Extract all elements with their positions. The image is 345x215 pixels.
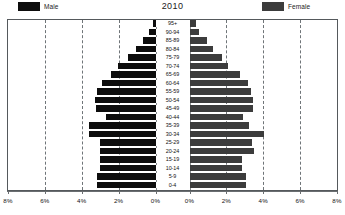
age-group-label: 25-29 [156, 139, 190, 146]
x-axis-tick-label: 4% [259, 197, 268, 204]
bar-male [97, 88, 156, 95]
table-row: 10-14 [8, 165, 337, 174]
bar-female [190, 165, 243, 172]
x-axis-tick-label: 8% [3, 197, 12, 204]
age-group-label: 90-94 [156, 29, 190, 36]
x-axis-tick [82, 191, 83, 194]
table-row: 0-4 [8, 182, 337, 191]
x-axis-tick-label: 2% [222, 197, 231, 204]
x-axis-tick [300, 191, 301, 194]
age-group-label: 40-44 [156, 114, 190, 121]
x-axis-tick-label: 6% [295, 197, 304, 204]
age-group-label: 15-19 [156, 156, 190, 163]
table-row: 40-44 [8, 114, 337, 123]
population-pyramid-chart: Male 2010 Female 95+90-9485-8980-8475-79… [0, 0, 345, 215]
bar-male [89, 131, 155, 138]
table-row: 80-84 [8, 46, 337, 55]
bar-female [190, 148, 255, 155]
bar-male [97, 182, 156, 189]
legend-item-female: Female [262, 2, 310, 11]
bar-male [100, 165, 155, 172]
plot-area: 95+90-9485-8980-8475-7970-7465-6960-6455… [7, 19, 338, 191]
bar-female [190, 29, 199, 36]
bar-female [190, 20, 196, 27]
bar-male [106, 114, 156, 121]
age-group-label: 55-59 [156, 88, 190, 95]
age-group-label: 0-4 [156, 182, 190, 189]
table-row: 95+ [8, 20, 337, 29]
bar-male [100, 139, 155, 146]
bar-male [102, 80, 155, 87]
table-row: 20-24 [8, 148, 337, 157]
age-group-label: 20-24 [156, 148, 190, 155]
x-axis-tick [8, 191, 9, 194]
bar-male [118, 63, 156, 70]
table-row: 25-29 [8, 139, 337, 148]
bar-female [190, 131, 265, 138]
x-axis-tick-label: 4% [77, 197, 86, 204]
x-axis-line [7, 191, 338, 192]
x-axis-tick [190, 191, 191, 194]
bar-female [190, 63, 229, 70]
x-axis-tick-label: 2% [114, 197, 123, 204]
bar-male [100, 156, 155, 163]
age-group-label: 75-79 [156, 54, 190, 61]
x-axis-tick [337, 191, 338, 194]
bar-female [190, 114, 243, 121]
age-group-label: 65-69 [156, 71, 190, 78]
bar-male [100, 148, 155, 155]
age-group-label: 80-84 [156, 46, 190, 53]
bar-female [190, 97, 254, 104]
age-group-label: 10-14 [156, 165, 190, 172]
table-row: 45-49 [8, 105, 337, 114]
bar-female [190, 139, 253, 146]
age-group-label: 30-34 [156, 131, 190, 138]
bar-male [143, 37, 156, 44]
table-row: 35-39 [8, 122, 337, 131]
x-axis-tick [45, 191, 46, 194]
bar-female [190, 173, 246, 180]
bar-female [190, 105, 254, 112]
age-group-label: 70-74 [156, 63, 190, 70]
bar-rows: 95+90-9485-8980-8475-7970-7465-6960-6455… [8, 20, 337, 190]
bar-male [128, 54, 156, 61]
age-group-label: 50-54 [156, 97, 190, 104]
bar-female [190, 80, 248, 87]
x-axis-tick-label: 0% [185, 197, 194, 204]
bar-male [89, 122, 155, 129]
bar-male [96, 105, 156, 112]
legend-swatch-female-icon [262, 2, 284, 11]
age-group-label: 45-49 [156, 105, 190, 112]
bar-male [95, 97, 156, 104]
bar-female [190, 37, 208, 44]
bar-female [190, 156, 243, 163]
x-axis-tick-label: 6% [40, 197, 49, 204]
table-row: 75-79 [8, 54, 337, 63]
table-row: 50-54 [8, 97, 337, 106]
legend: Male 2010 Female [0, 0, 345, 18]
table-row: 5-9 [8, 173, 337, 182]
bar-female [190, 46, 214, 53]
x-axis-tick [263, 191, 264, 194]
bar-female [190, 88, 252, 95]
bar-male [136, 46, 155, 53]
x-axis-tick [226, 191, 227, 194]
x-axis-tick-label: 0% [151, 197, 160, 204]
bar-female [190, 122, 250, 129]
legend-label-female: Female [288, 3, 310, 10]
age-group-label: 5-9 [156, 173, 190, 180]
age-group-label: 95+ [156, 20, 190, 27]
bar-male [111, 71, 155, 78]
table-row: 15-19 [8, 156, 337, 165]
age-group-label: 60-64 [156, 80, 190, 87]
table-row: 60-64 [8, 80, 337, 89]
x-axis-tick-label: 8% [332, 197, 341, 204]
bar-female [190, 71, 241, 78]
table-row: 55-59 [8, 88, 337, 97]
age-group-label: 85-89 [156, 37, 190, 44]
table-row: 65-69 [8, 71, 337, 80]
age-group-label: 35-39 [156, 122, 190, 129]
table-row: 85-89 [8, 37, 337, 46]
bar-female [190, 54, 222, 61]
bar-male [97, 173, 156, 180]
